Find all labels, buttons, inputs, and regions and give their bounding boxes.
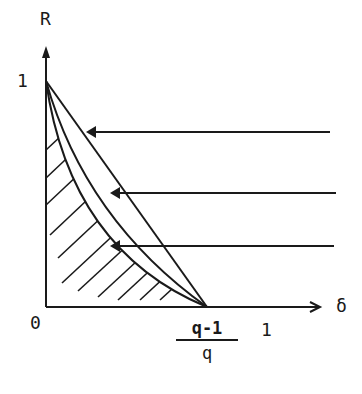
arrowhead-icon <box>86 126 96 138</box>
y-tick-one: 1 <box>17 72 28 90</box>
y-axis-arrowhead-icon <box>42 46 50 58</box>
rate-distance-diagram: R 1 0 δ 1 q-1 q <box>0 0 362 394</box>
fraction-numerator: q-1 <box>176 318 238 341</box>
arrowhead-icon <box>110 187 120 199</box>
x-tick-fraction: q-1 q <box>176 318 238 363</box>
fraction-denominator: q <box>176 341 238 363</box>
x-tick-one: 1 <box>261 321 272 339</box>
x-axis-label: δ <box>336 297 347 315</box>
hatched-region <box>46 90 220 300</box>
origin-label: 0 <box>30 314 41 332</box>
arrow-to-middle-curve <box>110 187 336 199</box>
y-axis-label: R <box>40 10 51 28</box>
arrow-to-straight-line <box>86 126 330 138</box>
arrow-to-lower-curve <box>110 240 334 252</box>
